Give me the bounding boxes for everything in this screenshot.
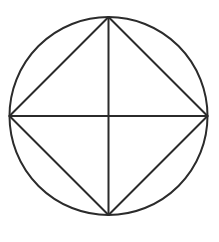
figure-canvas [0,0,219,242]
geometry-figure-svg [0,0,219,242]
